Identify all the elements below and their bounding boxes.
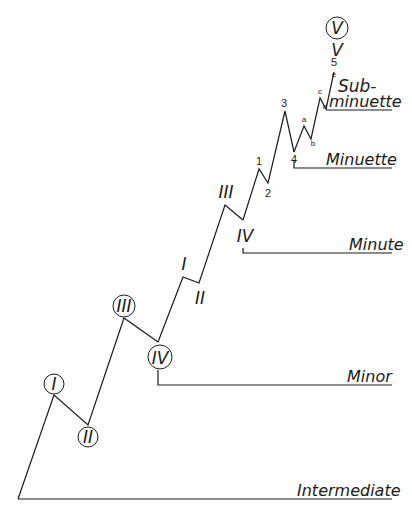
minor-wave-path (18, 318, 158, 499)
svg-text:II: II (83, 427, 93, 447)
subminuette-wave-c-label: c (318, 87, 322, 96)
wave-diagram: I II III IV V V I II III IV 1 2 3 4 5 a … (0, 0, 412, 524)
minute-wave-3-label: III (218, 182, 233, 202)
degree-label-minor: Minor (347, 367, 393, 386)
svg-text:I: I (51, 374, 56, 394)
svg-text:V: V (331, 18, 344, 38)
minuette-wave-3-label: 3 (281, 97, 287, 109)
subminuette-wave-d-label: d (323, 102, 327, 111)
subminuette-wave-e-label: e (332, 70, 337, 79)
minuette-wave-5-label: 5 (331, 56, 337, 68)
subminuette-wave-a-label: a (302, 115, 307, 124)
minor-wave-2-label: II (78, 427, 98, 447)
degree-label-minuette: Minuette (326, 150, 397, 169)
minuette-wave-path (243, 111, 294, 220)
minor-wave-5-label: V (326, 17, 348, 39)
minuette-wave-4-label: 4 (291, 153, 297, 165)
minor-wave-4-label: IV (148, 345, 172, 369)
subminuette-wave-b-label: b (311, 139, 316, 148)
minor-wave-1-label: I (44, 374, 64, 394)
minuette-wave-1-label: 1 (256, 155, 262, 167)
minute-wave-4-label: IV (237, 226, 255, 246)
degree-label-subminuette-2: minuette (329, 92, 402, 111)
minuette-wave-2-label: 2 (265, 187, 271, 199)
degree-label-minute: Minute (349, 235, 404, 254)
degree-label-intermediate: Intermediate (297, 481, 401, 500)
svg-text:III: III (116, 296, 131, 316)
minute-wave-path (158, 205, 243, 342)
svg-text:IV: IV (152, 348, 170, 368)
minute-wave-1-label: I (181, 254, 186, 274)
minor-wave-3-label: III (113, 295, 135, 317)
minute-wave-2-label: II (195, 288, 205, 308)
